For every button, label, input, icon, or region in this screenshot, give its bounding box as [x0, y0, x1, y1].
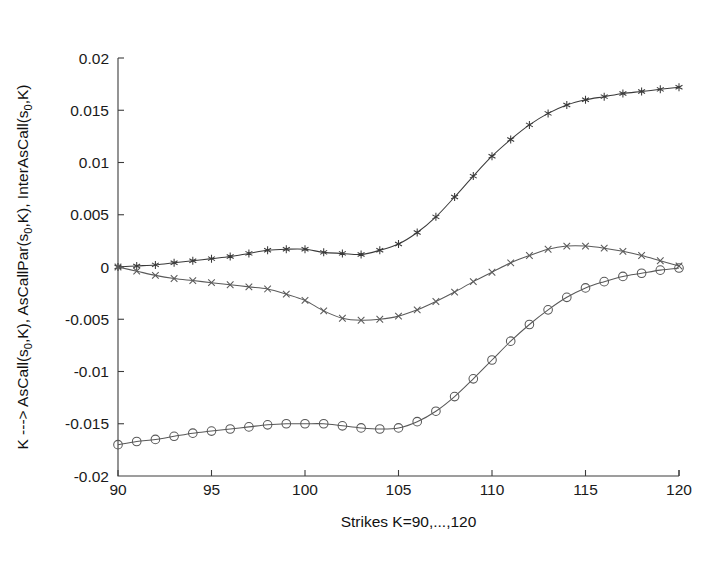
x-tick-label: 120: [666, 481, 692, 498]
x-tick-label: 90: [109, 481, 127, 498]
figure-page: 90951001051101151200.020.0150.010.0050-0…: [0, 0, 721, 564]
y-tick-label: 0.02: [79, 50, 109, 67]
y-tick-label: -0.005: [65, 311, 109, 328]
x-tick-label: 95: [203, 481, 220, 498]
x-tick-label: 105: [386, 481, 412, 498]
y-title-segment: ,K), AsCallPar(s: [14, 233, 31, 343]
y-title-segment: ,K): [14, 84, 31, 104]
x-tick-label: 100: [292, 481, 318, 498]
y-tick-label: -0.01: [74, 363, 109, 380]
x-axis-title: Strikes K=90,...,120: [341, 513, 477, 530]
y-tick-label: -0.02: [74, 468, 109, 485]
y-title-segment: ,K), InterAsCall(s: [14, 110, 31, 227]
y-tick-label: 0: [100, 259, 109, 276]
x-tick-label: 110: [480, 481, 505, 498]
x-tick-label: 115: [573, 481, 598, 498]
y-title-segment: K ---> AsCall(s: [14, 349, 31, 450]
y-tick-label: 0.015: [70, 102, 109, 119]
y-tick-label: 0.01: [79, 154, 109, 171]
chart-figure: 90951001051101151200.020.0150.010.0050-0…: [0, 0, 721, 564]
y-tick-label: -0.015: [65, 415, 109, 432]
y-tick-label: 0.005: [70, 206, 109, 223]
